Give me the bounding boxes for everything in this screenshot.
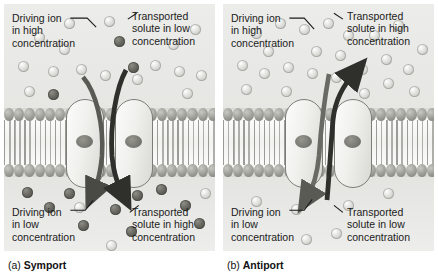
label-transported-solute-low: Transported solute in low concentration xyxy=(132,10,195,47)
driving-ion xyxy=(196,70,207,81)
transported-solute xyxy=(132,190,143,201)
driving-ion xyxy=(299,24,310,35)
label-driving-ion-low: Driving ion in low concentration xyxy=(231,206,294,243)
driving-ion xyxy=(357,64,368,75)
transported-solute xyxy=(331,228,342,239)
transported-solute xyxy=(156,184,167,195)
driving-ion xyxy=(281,86,292,97)
transported-solute xyxy=(64,188,75,199)
driving-ion xyxy=(24,86,35,97)
bilayer-tails xyxy=(223,120,434,165)
label-driving-ion-high: Driving ion in high concentration xyxy=(231,12,294,49)
bilayer-inner-heads xyxy=(4,164,215,177)
binding-site-right xyxy=(344,135,361,148)
driving-ion xyxy=(403,64,414,75)
lipid-bilayer xyxy=(223,108,434,177)
panel-symport: Driving ion in high concentration Transp… xyxy=(4,0,217,279)
transported-solute xyxy=(48,89,59,100)
driving-ion xyxy=(200,188,211,199)
driving-ion xyxy=(335,50,346,61)
transported-solute xyxy=(194,218,205,229)
label-transported-solute-high: Transported solute in high concentration xyxy=(347,10,410,47)
binding-site-left xyxy=(76,135,93,148)
driving-ion xyxy=(132,74,143,85)
driving-ion xyxy=(150,60,161,71)
caption-name: Symport xyxy=(24,259,67,271)
bilayer-inner-heads xyxy=(223,164,434,177)
label-transported-solute-high: Transported solute in high concentration xyxy=(132,206,195,243)
label-driving-ion-high: Driving ion in high concentration xyxy=(12,12,75,49)
driving-ion xyxy=(283,62,294,73)
panel-antiport: Driving ion in high concentration Transp… xyxy=(223,0,436,279)
bilayer-tails xyxy=(4,120,215,165)
driving-ion xyxy=(383,78,394,89)
driving-ion xyxy=(174,66,185,77)
lipid-bilayer xyxy=(4,108,215,177)
driving-ion xyxy=(359,88,370,99)
caption-symport: (a) Symport xyxy=(8,259,66,271)
driving-ion xyxy=(259,68,270,79)
binding-site-left xyxy=(295,135,312,148)
driving-ion xyxy=(104,16,115,27)
caption-tag: (a) xyxy=(8,259,21,271)
label-driving-ion-low: Driving ion in low concentration xyxy=(12,206,75,243)
caption-name: Antiport xyxy=(243,259,284,271)
transported-solute xyxy=(22,187,33,198)
driving-ion xyxy=(182,88,193,99)
driving-ion xyxy=(74,202,85,213)
driving-ion xyxy=(381,54,392,65)
transported-solute xyxy=(110,204,121,215)
transported-solute xyxy=(128,62,139,73)
caption-antiport: (b) Antiport xyxy=(227,259,284,271)
driving-ion xyxy=(311,46,322,57)
membrane-transport-figure: Driving ion in high concentration Transp… xyxy=(0,0,438,279)
binding-site-right xyxy=(125,135,142,148)
driving-ion xyxy=(241,84,252,95)
driving-ion xyxy=(409,86,420,97)
driving-ion xyxy=(331,72,342,83)
driving-ion xyxy=(301,234,312,245)
driving-ion xyxy=(417,44,428,55)
driving-ion xyxy=(100,70,111,81)
transported-solute xyxy=(383,188,394,199)
transported-solute xyxy=(78,220,89,231)
caption-tag: (b) xyxy=(227,259,240,271)
driving-ion xyxy=(106,240,117,251)
driving-ion xyxy=(307,68,318,79)
driving-ion xyxy=(18,61,29,72)
driving-ion xyxy=(323,18,334,29)
driving-ion xyxy=(48,66,59,77)
label-transported-solute-low: Transported solute in low concentration xyxy=(347,206,410,243)
transported-solute xyxy=(114,36,125,47)
driving-ion xyxy=(237,60,248,71)
driving-ion xyxy=(76,64,87,75)
